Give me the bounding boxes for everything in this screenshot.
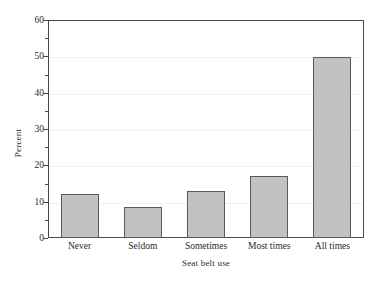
x-tick-label: Seldom	[111, 241, 174, 251]
bar-slot	[238, 20, 301, 238]
bar-seldom[interactable]	[124, 207, 162, 238]
bar-slot	[174, 20, 237, 238]
x-tick-label: Most times	[238, 241, 301, 251]
bar-all-times[interactable]	[313, 57, 351, 238]
bar-slot	[301, 20, 364, 238]
x-tick-label: All times	[301, 241, 364, 251]
x-tick-label: Never	[48, 241, 111, 251]
bar-sometimes[interactable]	[187, 191, 225, 238]
x-axis-tick-labels: NeverSeldomSometimesMost timesAll times	[48, 241, 364, 251]
bar-most-times[interactable]	[250, 176, 288, 238]
y-axis-tick-labels: 0102030405060	[20, 20, 44, 238]
bars-layer	[48, 20, 364, 238]
bar-chart: Percent 0102030405060 NeverSeldomSometim…	[0, 0, 374, 285]
x-tick-label: Sometimes	[174, 241, 237, 251]
bar-slot	[111, 20, 174, 238]
y-tick-major	[43, 238, 48, 239]
x-axis-title: Seat belt use	[48, 258, 364, 268]
bar-slot	[48, 20, 111, 238]
bar-never[interactable]	[61, 194, 99, 238]
